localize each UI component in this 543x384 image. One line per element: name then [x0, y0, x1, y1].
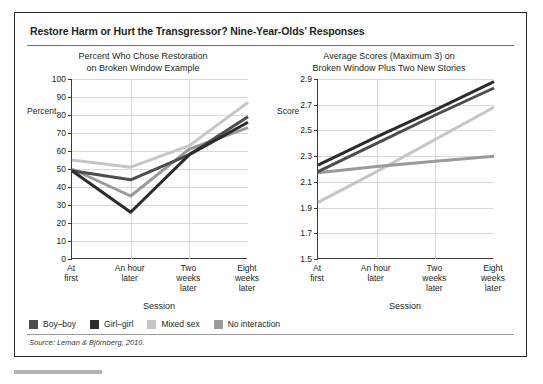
x-tick-label: Eightweekslater: [220, 263, 274, 293]
y-tick-label: 30: [57, 201, 66, 210]
y-tick-label: 70: [57, 129, 66, 138]
bottom-accent-bar: [14, 370, 102, 374]
legend-swatch: [214, 320, 223, 329]
chart-title-left-line1: Percent Who Chose Restoration: [25, 51, 261, 63]
series-line: [72, 117, 248, 180]
chart-title-right: Average Scores (Maximum 3) on Broken Win…: [271, 51, 507, 74]
x-tick-label: Eightweekslater: [466, 263, 520, 293]
series-line: [318, 107, 494, 202]
chart-panel-right: Average Scores (Maximum 3) on Broken Win…: [271, 51, 507, 316]
y-tick-label: 0: [61, 255, 66, 264]
title-divider: [27, 45, 514, 46]
y-tick-label: 2.7: [300, 100, 312, 109]
y-tick-label: 100: [52, 75, 66, 84]
source-note: Source: Leman & Björnberg, 2010.: [29, 338, 145, 347]
y-axis-label-left: Percent: [27, 106, 56, 116]
legend-swatch: [90, 320, 99, 329]
y-tick-label: 50: [57, 165, 66, 174]
chart-title-left: Percent Who Chose Restoration on Broken …: [25, 51, 261, 74]
x-tick-label: An hourlater: [103, 263, 157, 283]
x-axis-title-left: Session: [71, 301, 247, 311]
y-tick-label: 2.3: [300, 152, 312, 161]
legend-item[interactable]: Boy–boy: [29, 319, 76, 329]
x-tick-label: Atfirst: [44, 263, 98, 283]
plot-area-left: 0102030405060708090100: [71, 79, 247, 259]
y-tick-label: 2.1: [300, 178, 312, 187]
legend-label: Boy–boy: [43, 319, 76, 329]
y-tick-label: 60: [57, 147, 66, 156]
legend-swatch: [29, 320, 38, 329]
series-lines: [318, 79, 494, 259]
figure-title: Restore Harm or Hurt the Transgressor? N…: [30, 25, 364, 37]
x-tick-label: An hourlater: [349, 263, 403, 283]
chart-panel-left: Percent Who Chose Restoration on Broken …: [25, 51, 261, 316]
y-tick-label: 90: [57, 93, 66, 102]
x-axis-title-right: Session: [317, 301, 493, 311]
legend-swatch: [147, 320, 156, 329]
series-lines: [72, 79, 248, 259]
chart-title-right-line1: Average Scores (Maximum 3) on: [271, 51, 507, 63]
chart-title-left-line2: on Broken Window Example: [25, 63, 261, 75]
legend-item[interactable]: Girl–girl: [90, 319, 133, 329]
legend-label: Mixed sex: [161, 319, 199, 329]
y-tick-label: 1.9: [300, 203, 312, 212]
y-axis-label-right: Score: [277, 106, 299, 116]
x-tick-label: Twoweekslater: [407, 263, 461, 293]
y-tick-label: 80: [57, 111, 66, 120]
figure-container: Restore Harm or Hurt the Transgressor? N…: [14, 12, 527, 357]
x-tick-label: Twoweekslater: [161, 263, 215, 293]
y-tick-mark: [68, 259, 72, 260]
legend-label: Girl–girl: [104, 319, 133, 329]
legend-item[interactable]: No interaction: [214, 319, 280, 329]
y-tick-label: 40: [57, 183, 66, 192]
x-axis-ticks-left: AtfirstAn hourlaterTwoweekslaterEightwee…: [71, 263, 247, 303]
y-tick-label: 2.9: [300, 75, 312, 84]
legend-item[interactable]: Mixed sex: [147, 319, 199, 329]
y-tick-label: 20: [57, 219, 66, 228]
y-tick-label: 1.5: [300, 255, 312, 264]
y-tick-mark: [314, 259, 318, 260]
chart-title-right-line2: Broken Window Plus Two New Stories: [271, 63, 507, 75]
y-tick-label: 10: [57, 237, 66, 246]
y-tick-label: 1.7: [300, 229, 312, 238]
legend-label: No interaction: [228, 319, 280, 329]
x-tick-label: Atfirst: [290, 263, 344, 283]
x-axis-ticks-right: AtfirstAn hourlaterTwoweekslaterEightwee…: [317, 263, 493, 303]
plot-area-right: 1.51.71.92.12.32.52.72.9: [317, 79, 493, 259]
source-divider: [27, 334, 514, 335]
chart-legend: Boy–boyGirl–girlMixed sexNo interaction: [29, 319, 280, 329]
y-tick-label: 2.5: [300, 126, 312, 135]
